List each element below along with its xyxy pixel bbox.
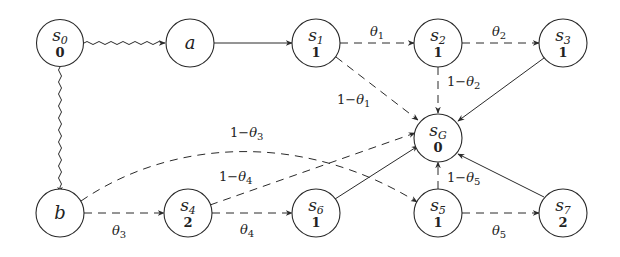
node-s3: s3 1	[539, 19, 587, 67]
edge-label-b-s5: 1−θ3	[230, 125, 263, 142]
node-s2: s2 1	[414, 19, 462, 67]
edge-s3-sG	[458, 58, 544, 121]
svg-text:0: 0	[55, 45, 64, 60]
edge-s1-sG	[336, 57, 418, 120]
edge-label-s5-sG: 1−θ5	[447, 170, 480, 187]
edge-s0-a	[84, 42, 165, 45]
svg-text:b: b	[54, 202, 66, 223]
edge-s0-b	[59, 67, 62, 193]
svg-text:1: 1	[311, 45, 320, 60]
edge-s6-sG	[335, 146, 418, 199]
svg-text:1: 1	[433, 215, 442, 230]
svg-text:2: 2	[558, 215, 567, 230]
node-s4: s4 2	[164, 189, 212, 237]
edge-label-s2-sG: 1−θ2	[447, 74, 480, 91]
node-s5: s5 1	[414, 189, 462, 237]
node-s1: s1 1	[292, 19, 340, 67]
svg-text:a: a	[185, 32, 196, 53]
node-b: b	[36, 189, 84, 237]
node-s7: s7 2	[539, 189, 587, 237]
edge-label-s4-s6: θ4	[240, 222, 254, 239]
svg-text:1: 1	[311, 215, 320, 230]
node-sG: sG 0	[414, 114, 462, 162]
node-s6: s6 1	[292, 189, 340, 237]
svg-text:1: 1	[433, 45, 442, 60]
edge-label-s1-sG: 1−θ1	[337, 92, 370, 109]
edge-label-s1-s2: θ1	[370, 24, 384, 41]
edge-label-b-s4: θ3	[112, 223, 126, 240]
svg-text:2: 2	[183, 215, 192, 230]
edge-label-s5-s7: θ5	[492, 223, 506, 240]
svg-text:0: 0	[433, 140, 442, 155]
svg-text:1: 1	[558, 45, 567, 60]
state-diagram: s0 0 a s1 1 s2 1 s3 1 sG 0 b s4 2 s6 1	[0, 0, 620, 257]
node-s0: s0 0	[37, 20, 84, 67]
edge-label-s2-s3: θ2	[492, 24, 506, 41]
node-a: a	[166, 19, 214, 67]
edge-label-s4-sG: 1−θ4	[219, 169, 252, 186]
